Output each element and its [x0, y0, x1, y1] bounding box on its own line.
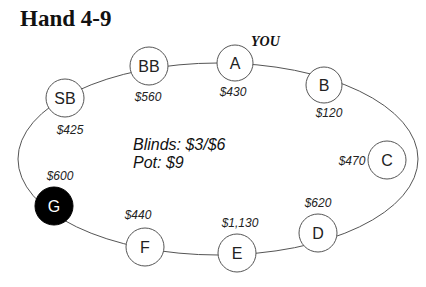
svg-text:B: B	[319, 77, 330, 94]
seat-g: G $600	[35, 169, 74, 225]
svg-text:$600: $600	[46, 169, 74, 183]
seat-c: C $470	[338, 141, 406, 179]
svg-text:C: C	[381, 152, 393, 169]
seat-bb: BB $560	[130, 47, 168, 104]
svg-text:$425: $425	[56, 123, 84, 137]
seat-f: F $440	[124, 208, 164, 266]
svg-text:$560: $560	[134, 90, 162, 104]
seat-b: B $120	[306, 67, 343, 120]
svg-text:G: G	[48, 198, 60, 215]
svg-text:A: A	[230, 55, 241, 72]
svg-text:$430: $430	[219, 85, 247, 99]
svg-text:$470: $470	[338, 154, 366, 168]
svg-text:$120: $120	[315, 106, 343, 120]
svg-text:BB: BB	[138, 58, 159, 75]
svg-text:$440: $440	[124, 208, 152, 222]
svg-text:F: F	[140, 239, 150, 256]
svg-text:$620: $620	[304, 196, 332, 210]
blinds-text: Blinds: $3/$6	[133, 136, 226, 154]
seat-sb: SB $425	[46, 79, 84, 137]
pot-text: Pot: $9	[133, 154, 226, 172]
svg-text:D: D	[312, 225, 324, 242]
seat-d: D $620	[299, 196, 337, 252]
svg-text:SB: SB	[54, 90, 75, 107]
seat-e: E $1,130	[218, 216, 259, 272]
hand-info: Blinds: $3/$6 Pot: $9	[133, 136, 226, 172]
svg-text:E: E	[232, 245, 243, 262]
seat-a: A $430	[217, 45, 253, 99]
svg-text:$1,130: $1,130	[221, 216, 259, 230]
